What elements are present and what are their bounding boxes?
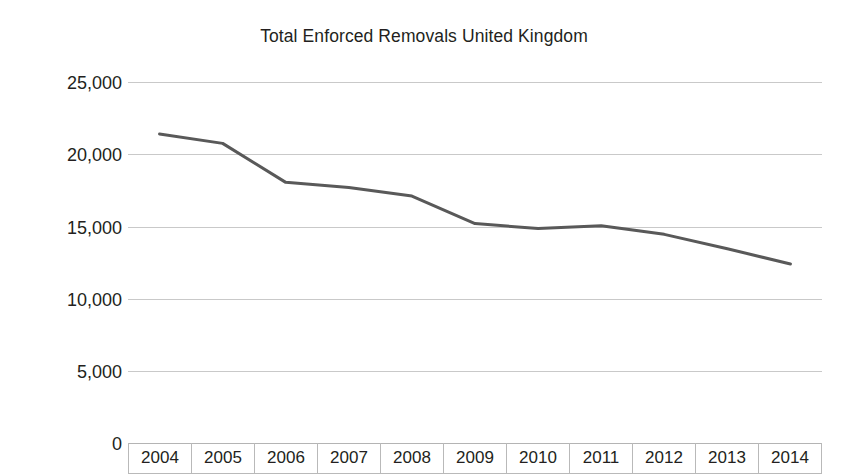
y-tick-label: 20,000 [12, 146, 122, 164]
x-tick-2013: 2013 [696, 443, 759, 474]
y-tick-label: 5,000 [12, 363, 122, 381]
x-axis-year-table: 2004 2005 2006 2007 2008 2009 2010 2011 … [128, 443, 822, 474]
y-tick-label: 15,000 [12, 219, 122, 237]
gridline-15000 [128, 227, 822, 228]
chart-title: Total Enforced Removals United Kingdom [0, 26, 848, 47]
chart-container: Total Enforced Removals United Kingdom 2… [0, 0, 848, 474]
x-tick-2009: 2009 [444, 443, 507, 474]
x-tick-2008: 2008 [381, 443, 444, 474]
y-tick-label: 10,000 [12, 291, 122, 309]
y-tick-label: 0 [12, 435, 122, 453]
gridline-20000 [128, 154, 822, 155]
plot-area [128, 70, 822, 455]
x-tick-2012: 2012 [633, 443, 696, 474]
x-tick-2010: 2010 [507, 443, 570, 474]
x-tick-2011: 2011 [570, 443, 633, 474]
x-tick-2006: 2006 [255, 443, 318, 474]
gridline-25000 [128, 82, 822, 83]
x-tick-2007: 2007 [318, 443, 381, 474]
x-tick-2004: 2004 [129, 443, 192, 474]
y-tick-label: 25,000 [12, 74, 122, 92]
x-axis-row: 2004 2005 2006 2007 2008 2009 2010 2011 … [129, 443, 822, 474]
x-tick-2014: 2014 [759, 443, 822, 474]
gridline-10000 [128, 299, 822, 300]
gridline-5000 [128, 371, 822, 372]
x-tick-2005: 2005 [192, 443, 255, 474]
y-axis: 25,000 20,000 15,000 10,000 5,000 0 [0, 0, 122, 474]
